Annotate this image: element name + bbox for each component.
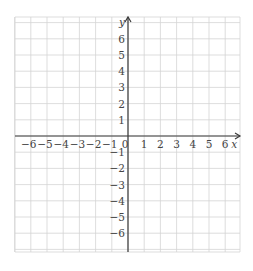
grid-lines — [15, 17, 240, 252]
x-tick-label: 5 — [206, 138, 213, 150]
y-tick-label: −2 — [110, 162, 125, 174]
x-tick-label: −4 — [53, 138, 69, 150]
y-tick-label: 1 — [118, 114, 125, 126]
y-tick-label: −1 — [110, 146, 125, 158]
y-tick-label: −3 — [110, 179, 125, 191]
x-tick-label: 1 — [141, 138, 148, 150]
x-tick-label: −5 — [37, 138, 52, 150]
y-tick-label: 2 — [118, 98, 125, 110]
y-tick-label: 6 — [118, 33, 125, 45]
x-tick-label: 2 — [157, 138, 164, 150]
x-tick-label: −6 — [21, 138, 37, 150]
y-tick-label: −5 — [110, 211, 125, 223]
x-tick-label: 4 — [189, 138, 196, 150]
y-tick-label: 3 — [118, 81, 125, 93]
x-tick-label: 6 — [222, 138, 229, 150]
coordinate-plane: −6−5−4−3−2−10123456 −6−5−4−3−2−1123456 x… — [0, 0, 253, 271]
x-tick-label: 3 — [173, 138, 180, 150]
y-tick-label: −6 — [110, 227, 126, 239]
y-tick-label: 5 — [118, 49, 125, 61]
y-tick-label: 4 — [118, 65, 125, 77]
x-tick-label: −3 — [70, 138, 85, 150]
y-tick-label: −4 — [110, 195, 126, 207]
x-axis-label: x — [231, 138, 237, 150]
x-tick-label: −2 — [86, 138, 101, 150]
y-axis-label: y — [118, 16, 126, 28]
